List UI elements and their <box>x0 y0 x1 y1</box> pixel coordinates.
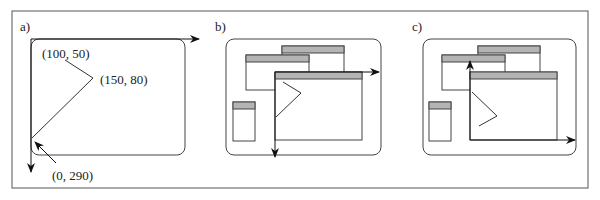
polyline-shape <box>32 60 93 138</box>
figure: a) (100, 50) (150, 80) (0, 290) b) <box>0 0 600 200</box>
panel-a-label: a) <box>20 19 30 34</box>
panel-c-label: c) <box>412 19 422 34</box>
window-front <box>470 72 557 140</box>
panel-b-label: b) <box>215 19 226 34</box>
panel-a: a) (100, 50) (150, 80) (0, 290) <box>20 19 199 183</box>
pointer-arrow <box>35 142 56 163</box>
window-small <box>233 102 255 141</box>
window-small <box>429 102 451 141</box>
panel-b: b) <box>215 19 381 157</box>
point-label-100-50: (100, 50) <box>42 46 90 61</box>
point-label-150-80: (150, 80) <box>100 72 148 87</box>
panel-c: c) <box>412 19 576 155</box>
point-label-0-290: (0, 290) <box>52 168 93 183</box>
